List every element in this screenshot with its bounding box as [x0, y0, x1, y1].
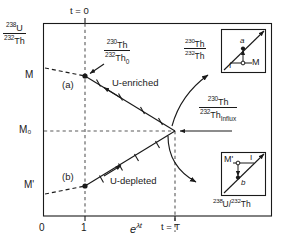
initial-ratio-num-el: Th: [117, 40, 128, 50]
y-axis-num-sup: 238: [6, 21, 16, 28]
influx-ratio-den-sup: 232: [200, 108, 210, 115]
y-tick-label-M: M: [25, 70, 33, 80]
x-tick-label-0: 0: [39, 223, 45, 233]
curve-label-u-depleted: U-depleted: [110, 176, 156, 186]
inset-top-den-sup: 232: [185, 49, 195, 56]
inset-bottom-target-label: M': [224, 155, 233, 164]
time-marker-tT: t = T: [161, 222, 180, 232]
inset-top-num-el: Th: [195, 39, 205, 49]
time-marker-t0: t = 0: [70, 6, 89, 16]
x-axis-label-exponent: λt: [136, 221, 142, 230]
inset-top-den-el: Th: [195, 51, 205, 61]
initial-ratio-den-sup: 232: [105, 51, 115, 58]
influx-ratio-label: 230Th 232ThInflux: [199, 96, 237, 122]
pointer-initial-ratio: [90, 64, 104, 74]
inset-bottom-sup2: 232: [231, 197, 241, 204]
initial-ratio-subscript: 0: [126, 58, 130, 65]
influx-ratio-subscript: Influx: [221, 115, 236, 122]
inset-bottom-el2: Th: [241, 199, 251, 209]
initial-ratio-num-sup: 230: [107, 38, 117, 45]
inset-bottom-vertex-label: I: [250, 154, 252, 162]
inset-top-point-label: a: [240, 37, 244, 45]
inset-top-axis-label: 230Th 232Th: [184, 38, 206, 61]
point-label-b: (b): [62, 172, 74, 182]
inset-top-num-sup: 230: [185, 37, 195, 44]
y-tick-label-M0: M₀: [19, 125, 31, 135]
inset-bottom-axis-label: 238U/232Th: [213, 198, 251, 208]
y-axis-num-el: U: [16, 23, 23, 33]
data-point-b: [82, 183, 87, 188]
data-point-a: [82, 73, 87, 78]
influx-ratio-num-el: Th: [218, 97, 229, 107]
initial-ratio-den-el: Th: [115, 53, 126, 63]
x-tick-label-1: 1: [81, 223, 87, 233]
y-axis-den-el: Th: [14, 36, 25, 46]
direction-arrow-u-enriched: [104, 88, 121, 99]
influx-ratio-num-sup: 230: [208, 95, 218, 102]
inset-bottom-sup1: 238: [213, 197, 223, 204]
point-label-a: (a): [62, 80, 74, 90]
callout-arrow-bottom-inset: [168, 136, 196, 182]
y-tick-label-M-prime: M': [24, 180, 34, 190]
inset-top-target-label: M: [252, 58, 260, 67]
y-axis-label: 238U 232Th: [3, 22, 26, 46]
influx-ratio-den-el: Th: [210, 110, 221, 120]
figure-canvas: 238U 232Th M M₀ M' 0 1 eλt t = 0 t = T 2…: [0, 0, 286, 251]
inset-bottom-point-label: b: [241, 179, 245, 187]
curve-label-u-enriched: U-enriched: [112, 78, 158, 88]
inset-top-vertex-label: I: [229, 62, 231, 70]
initial-ratio-label: 230Th 232Th0: [104, 39, 130, 65]
y-axis-den-sup: 232: [4, 34, 14, 41]
x-axis-label: eλt: [130, 222, 142, 235]
